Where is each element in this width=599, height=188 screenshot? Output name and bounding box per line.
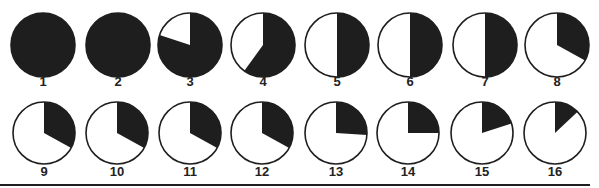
fraction-circle: 6 [378,13,442,89]
diagram-canvas: 12345678910111213141516 [0,0,599,188]
fraction-circle: 2 [86,13,150,89]
dark-wedge [336,102,367,135]
fraction-circle: 14 [377,102,439,179]
fraction-circle: 11 [159,102,221,179]
circle-label: 13 [329,164,343,179]
fraction-circle: 16 [524,102,586,179]
fraction-circles-diagram: 12345678910111213141516 [0,0,599,188]
fraction-circle: 3 [158,13,222,89]
dark-wedge [337,13,369,77]
circle-label: 10 [110,164,124,179]
circle-label: 7 [481,74,488,89]
circle-label: 5 [333,74,340,89]
dark-fill [86,13,150,77]
circle-label: 2 [114,74,121,89]
circle-label: 3 [186,74,193,89]
fraction-circle: 5 [305,13,369,89]
circle-label: 9 [40,164,47,179]
dark-wedge [485,13,517,77]
circle-label: 4 [259,74,267,89]
circle-label: 16 [548,164,562,179]
circle-label: 1 [39,74,46,89]
fraction-circle: 1 [11,13,75,89]
circle-label: 6 [406,74,413,89]
circle-label: 15 [475,164,489,179]
fraction-circle: 4 [231,13,295,89]
circle-label: 11 [183,164,197,179]
dark-wedge [408,102,439,133]
fraction-circle: 10 [86,102,148,179]
fraction-circle: 7 [453,13,517,89]
fraction-circle: 15 [451,102,513,179]
circle-label: 8 [553,74,560,89]
dark-wedge [410,13,442,77]
dark-fill [11,13,75,77]
fraction-circle: 9 [13,102,75,179]
circle-label: 14 [401,164,416,179]
fraction-circle: 8 [525,13,589,89]
fraction-circle: 13 [305,102,367,179]
circle-label: 12 [255,164,269,179]
fraction-circle: 12 [231,102,293,179]
